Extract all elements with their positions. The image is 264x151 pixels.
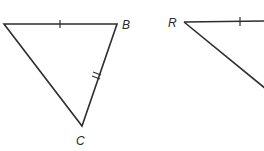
congruent-triangles-diagram: B C R [0, 0, 264, 151]
triangle-r-top-side [184, 21, 264, 22]
triangle-r [184, 17, 264, 89]
vertex-label-r: R [168, 16, 177, 30]
triangle-r-diagonal-side [184, 22, 264, 89]
vertex-label-c: C [76, 134, 85, 148]
triangles-figure: B C R [0, 0, 264, 151]
triangle-abc [4, 20, 117, 126]
vertex-label-b: B [122, 18, 130, 32]
